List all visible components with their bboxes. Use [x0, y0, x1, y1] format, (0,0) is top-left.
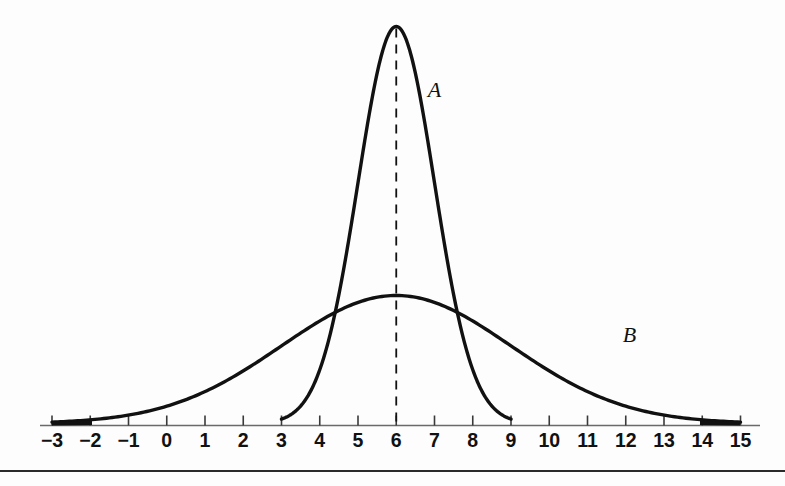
x-tick-label-16: 13	[653, 429, 675, 451]
bottom-horizontal-rule	[0, 470, 785, 472]
x-tick-label-5: 2	[238, 429, 249, 451]
axis-right-tail-overlay	[700, 423, 740, 424]
x-tick-label-14: 11	[577, 429, 598, 451]
curve-label-a: A	[426, 77, 442, 102]
x-tick-label-11: 8	[467, 429, 478, 451]
curve-label-b: B	[623, 322, 636, 347]
x-tick-label-4: 1	[200, 429, 211, 451]
x-tick-label-1: −2	[79, 429, 101, 451]
x-tick-label-15: 12	[615, 429, 637, 451]
x-tick-label-18: 15	[730, 429, 752, 451]
axis-left-tail-overlay	[52, 423, 92, 424]
x-tick-label-3: 0	[161, 429, 172, 451]
x-tick-label-8: 5	[353, 429, 364, 451]
x-tick-label-9: 6	[391, 429, 402, 451]
figure-root: −3−2−10123456789101112131415 A B	[0, 0, 785, 486]
x-tick-label-13: 10	[538, 429, 560, 451]
x-tick-label-6: 3	[276, 429, 287, 451]
x-tick-label-10: 7	[429, 429, 440, 451]
x-tick-label-2: −1	[117, 429, 139, 451]
x-tick-label-0: −3	[41, 429, 63, 451]
x-tick-label-7: 4	[314, 429, 325, 451]
x-axis-tick-labels: −3−2−10123456789101112131415	[41, 429, 752, 451]
x-tick-label-12: 9	[506, 429, 517, 451]
x-tick-label-17: 14	[691, 429, 713, 451]
normal-distribution-chart: −3−2−10123456789101112131415 A B	[0, 0, 785, 486]
